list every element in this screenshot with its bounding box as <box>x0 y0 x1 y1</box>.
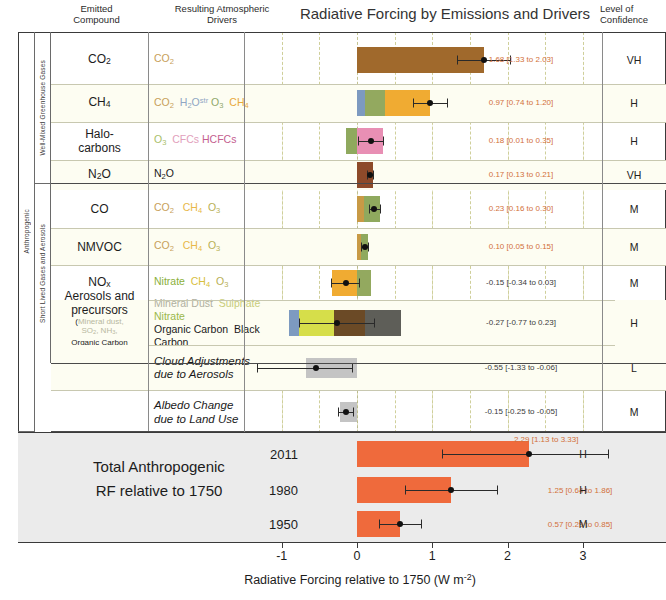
row-separator <box>51 265 666 266</box>
row-separator <box>51 122 666 123</box>
axis-tick <box>508 542 509 548</box>
chart-row: NMVOCCO2 CH4 O30.10 [0.05 to 0.15]M <box>51 228 666 265</box>
total-anthropogenic-block: Total Anthropogenic RF relative to 1750 … <box>18 432 666 542</box>
row-separator <box>51 84 666 85</box>
group-label-anthropogenic: Anthropogenic <box>18 32 35 431</box>
forcing-value: -0.55 [-1.33 to -0.06] <box>441 363 601 373</box>
chart-row: Halo-carbonsO3 CFCs HCFCs0.18 [0.01 to 0… <box>51 122 666 160</box>
total-row: 19500.57 [0.29 to 0.85]M <box>18 509 666 539</box>
forcing-value: 0.10 [0.05 to 0.15] <box>441 242 601 252</box>
x-axis-line <box>18 542 666 543</box>
total-forcing-value: 2.29 [1.13 to 3.33] <box>466 435 626 444</box>
chart-row: N2ON2O0.17 [0.13 to 0.21]VH <box>51 160 666 190</box>
axis-tick <box>282 542 283 548</box>
total-confidence-level: H <box>552 448 614 460</box>
axis-tick <box>357 542 358 548</box>
row-separator <box>148 300 615 301</box>
separator-plot-confidence <box>602 32 603 478</box>
total-row: 19801.25 [0.64 to 1.86]H <box>18 475 666 505</box>
chart-row: Albedo Changedue to Land Use-0.15 [-0.25… <box>51 390 666 434</box>
forcing-value: -0.15 [-0.34 to 0.03] <box>441 278 601 288</box>
axis-tick-label: 3 <box>568 549 598 563</box>
confidence-level: H <box>603 135 665 147</box>
separator-compound-drivers <box>148 32 149 431</box>
row-separator <box>51 228 666 229</box>
chart-title: Radiative Forcing by Emissions and Drive… <box>285 5 605 22</box>
row-separator <box>51 160 666 161</box>
column-header-level-of-confidence: Level of Confidence <box>600 3 666 25</box>
forcing-value: 1.68 [1.33 to 2.03] <box>441 55 601 65</box>
forcing-value: -0.27 [-0.77 to 0.23] <box>441 318 601 328</box>
group-label-short-lived-gases-and-aerosols: Short Lived Gases and Aerosols <box>35 183 51 363</box>
confidence-level: M <box>603 241 665 253</box>
axis-tick-label: -1 <box>267 549 297 563</box>
chart-row: Cloud Adjustmentsdue to Aerosols-0.55 [-… <box>51 345 666 390</box>
total-confidence-level: H <box>552 484 614 496</box>
forcing-value: 0.23 [0.16 to 0.30] <box>441 204 601 214</box>
axis-tick <box>583 542 584 548</box>
confidence-level: VH <box>603 54 665 66</box>
confidence-level: M <box>603 277 665 289</box>
total-row: 20112.29 [1.13 to 3.33]H <box>18 439 666 469</box>
x-axis-title: Radiative Forcing relative to 1750 (W m-… <box>100 572 620 587</box>
forcing-value: 0.17 [0.13 to 0.21] <box>441 170 601 180</box>
confidence-level: H <box>603 97 665 109</box>
separator-drivers-plot <box>244 32 245 478</box>
chart-row: COCO2 CH4 O30.23 [0.16 to 0.30]M <box>51 190 666 228</box>
chart-row: Aerosols andprecursors(Mineral dust,SO2,… <box>51 300 666 345</box>
confidence-level: H <box>603 317 665 329</box>
axis-tick-label: 0 <box>342 549 372 563</box>
radiative-forcing-chart: Emitted Compound Resulting Atmospheric D… <box>0 0 666 600</box>
confidence-level: M <box>603 406 665 418</box>
row-separator <box>51 390 666 391</box>
forcing-value: -0.15 [-0.25 to -0.05] <box>441 407 601 417</box>
forcing-value: 0.18 [0.01 to 0.35] <box>441 136 601 146</box>
row-separator <box>51 183 666 184</box>
axis-tick-label: 2 <box>493 549 523 563</box>
axis-tick <box>432 542 433 548</box>
confidence-level: VH <box>603 169 665 181</box>
chart-row: CO2CO21.68 [1.33 to 2.03]VH <box>51 36 666 84</box>
group-label-well-mixed-greenhouse-gases: Well-Mixed Greenhouse Gases <box>35 32 51 183</box>
total-confidence-level: M <box>552 518 614 530</box>
row-separator <box>51 363 666 364</box>
forcing-value: 0.97 [0.74 to 1.20] <box>441 98 601 108</box>
confidence-level: M <box>603 203 665 215</box>
chart-row: CH4CO2 H2Ostr O3 CH40.97 [0.74 to 1.20]H <box>51 84 666 122</box>
column-header-atmospheric-drivers: Resulting Atmospheric Drivers <box>152 3 292 25</box>
column-header-emitted-compound: Emitted Compound <box>44 3 149 25</box>
axis-tick-label: 1 <box>417 549 447 563</box>
row-separator <box>148 345 615 346</box>
